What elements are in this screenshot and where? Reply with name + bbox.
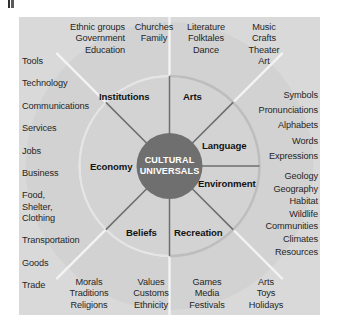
outer-item: Services xyxy=(22,123,56,133)
outer-item: Jobs xyxy=(22,146,41,156)
outer-item: Habitat xyxy=(290,196,318,206)
outer-item: Festivals xyxy=(189,300,224,310)
outer-item: Art xyxy=(258,56,269,66)
outer-item: Trade xyxy=(22,280,45,290)
outer-item: Government xyxy=(75,33,125,43)
outer-institutions-col1: Ethnic groups Government Education xyxy=(47,22,125,56)
outer-item: Holidays xyxy=(249,300,283,310)
outer-language-list: Symbols Pronunciations Alphabets Words E… xyxy=(218,88,318,164)
hub-label-line2: UNIVERSALS xyxy=(140,166,200,176)
outer-item: Folktales xyxy=(188,33,224,43)
outer-item: Geology xyxy=(284,171,318,181)
outer-item: Theater xyxy=(249,45,280,55)
outer-item: Transportation xyxy=(22,235,80,245)
outer-item: Tools xyxy=(22,56,43,66)
outer-item: Churches xyxy=(135,22,174,32)
outer-beliefs-col1: Morals Traditions Religions xyxy=(58,277,120,311)
outer-item: Wildlife xyxy=(289,209,318,219)
outer-arts-col2: Music Crafts Theater Art xyxy=(238,22,290,68)
outer-item: Literature xyxy=(187,22,225,32)
outer-economy-list: Tools Technology Communications Services… xyxy=(22,56,118,291)
hub-label-line1: CULTURAL xyxy=(145,155,195,165)
outer-item: Communities xyxy=(265,221,318,231)
outer-item: Symbols xyxy=(283,90,318,100)
outer-item: Toys xyxy=(257,288,276,298)
outer-item: Media xyxy=(195,288,220,298)
outer-item: Goods xyxy=(22,258,49,268)
outer-item: Resources xyxy=(275,247,318,257)
sector-label-recreation[interactable]: Recreation xyxy=(174,227,223,238)
outer-item: Values xyxy=(138,277,165,287)
outer-item: Alphabets xyxy=(278,120,318,130)
outer-recreation-col2: Arts Toys Holidays xyxy=(240,277,292,311)
outer-item: Ethnic groups xyxy=(70,22,125,32)
outer-item: Traditions xyxy=(70,288,109,298)
outer-item: Pronunciations xyxy=(259,105,318,115)
outer-item: Games xyxy=(192,277,221,287)
outer-item: Business xyxy=(22,168,58,178)
outer-arts-col1: Literature Folktales Dance xyxy=(176,22,236,56)
outer-item: Communications xyxy=(22,101,89,111)
outer-item: Words xyxy=(292,136,318,146)
outer-item: Morals xyxy=(76,277,103,287)
outer-environment-list: Geology Geography Habitat Wildlife Commu… xyxy=(218,170,318,258)
outer-item: Arts xyxy=(258,277,274,287)
sector-label-arts[interactable]: Arts xyxy=(183,91,202,102)
outer-institutions-col2: Churches Family xyxy=(128,22,180,45)
hub-label: CULTURAL UNIVERSALS xyxy=(131,155,208,176)
outer-item: Shelter, xyxy=(22,202,52,212)
outer-item: Technology xyxy=(22,78,67,88)
outer-item: Food, xyxy=(22,190,45,200)
outer-item: Expressions xyxy=(269,151,318,161)
outer-beliefs-col2: Values Customs Ethnicity xyxy=(124,277,178,311)
outer-item: Religions xyxy=(71,300,108,310)
outer-item: Climates xyxy=(283,234,318,244)
outer-item: Customs xyxy=(133,288,169,298)
outer-item: Dance xyxy=(193,45,219,55)
outer-item: Education xyxy=(85,45,125,55)
outer-item: Family xyxy=(141,33,167,43)
sector-label-beliefs[interactable]: Beliefs xyxy=(126,227,157,238)
outer-recreation-col1: Games Media Festivals xyxy=(180,277,234,311)
outer-item: Crafts xyxy=(252,33,276,43)
outer-item: Clothing xyxy=(22,213,55,223)
figure-canvas: CULTURAL UNIVERSALS Institutions Arts La… xyxy=(0,0,339,330)
outer-item: Music xyxy=(252,22,276,32)
outer-item: Ethnicity xyxy=(134,300,168,310)
outer-item: Geography xyxy=(273,184,318,194)
